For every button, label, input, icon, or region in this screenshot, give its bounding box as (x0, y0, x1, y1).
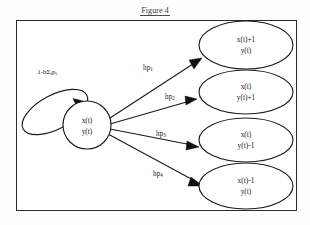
center-node-circle (63, 101, 111, 149)
target-node-1-ellipse (199, 21, 293, 69)
edge-2-label: hp2 (165, 93, 175, 101)
edge-1-arrowhead (189, 58, 202, 69)
target-node-3-ellipse (199, 118, 293, 162)
target-node-2-ellipse (199, 70, 293, 114)
transition-diagram: 1-hΣipi hp1 hp2 hp3 hp4 x (0, 0, 310, 225)
target-node-3: x(t) y(t)-1 (199, 118, 293, 162)
target-node-4-ellipse (199, 163, 293, 209)
target-node-4: x(t)-1 y(t) (199, 163, 293, 209)
edge-3-label: hp3 (156, 130, 166, 138)
center-node: x(t) y(t) (63, 101, 111, 149)
target-node-2: x(t) y(t)+1 (199, 70, 293, 114)
target-node-2-line1: x(t) (241, 82, 252, 91)
target-node-1: x(t)+1 y(t) (199, 21, 293, 69)
target-node-1-line2: y(t) (241, 46, 252, 55)
center-node-line1: x(t) (82, 116, 93, 125)
edge-3-line (110, 129, 192, 145)
edge-2-line (110, 101, 190, 124)
target-node-1-line1: x(t)+1 (237, 35, 256, 44)
edge-3-group (110, 129, 199, 150)
edge-4-label: hp4 (153, 170, 163, 178)
edge-2-arrowhead (185, 96, 197, 105)
center-node-line2: y(t) (82, 127, 93, 136)
edge-1-line (110, 62, 196, 118)
edge-1-group (110, 58, 202, 118)
self-loop-label: 1-hΣipi (37, 68, 57, 76)
target-node-4-line2: y(t) (241, 187, 252, 196)
target-node-3-line1: x(t) (241, 130, 252, 139)
target-node-3-line2: y(t)-1 (238, 141, 255, 150)
target-node-2-line2: y(t)+1 (237, 93, 256, 102)
edge-4-line (108, 134, 195, 181)
target-node-4-line1: x(t)-1 (238, 176, 255, 185)
figure-root: Figure 4 1-hΣipi h (0, 0, 310, 225)
edge-1-label: hp1 (143, 64, 153, 72)
edge-3-arrowhead (186, 141, 199, 150)
